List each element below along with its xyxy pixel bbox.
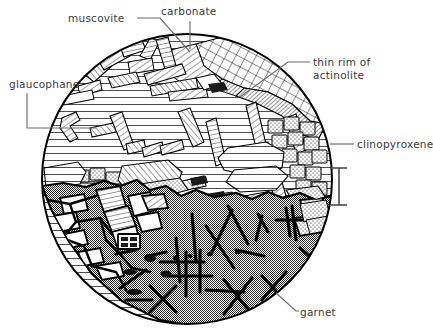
label-garnet: garnet xyxy=(300,306,336,319)
section-interior xyxy=(30,30,360,330)
label-glaucophane: glaucophane xyxy=(9,78,80,91)
label-clinopyroxene: clinopyroxene xyxy=(357,138,433,151)
scale-bar xyxy=(331,168,347,205)
label-muscovite: muscovite xyxy=(68,12,125,25)
garnet-leader xyxy=(276,293,299,311)
label-actinolite: thin rim of actinolite xyxy=(313,56,370,81)
label-carbonate: carbonate xyxy=(161,5,217,18)
label-actinolite-line2: actinolite xyxy=(313,69,370,82)
label-actinolite-line1: thin rim of xyxy=(313,56,370,69)
